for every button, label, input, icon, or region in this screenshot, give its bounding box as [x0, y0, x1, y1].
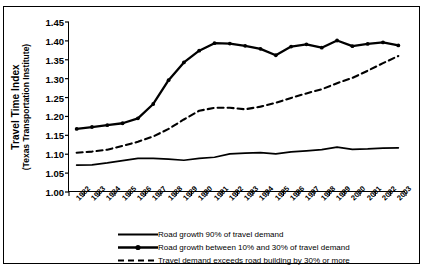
series-line-0: [77, 147, 399, 165]
data-point-marker: [259, 47, 263, 51]
data-point-marker: [182, 61, 186, 65]
data-point-marker: [350, 44, 354, 48]
y-tick-label: 1.45: [46, 17, 65, 28]
data-point-marker: [320, 46, 324, 50]
x-axis-tick-labels: 1982198319841985198619871988198919901991…: [68, 194, 405, 228]
y-tick-label: 1.30: [46, 73, 65, 84]
solid-thick-marker-key: [118, 242, 158, 253]
series-line-2: [77, 56, 399, 153]
data-point-marker: [105, 123, 109, 127]
plot-area: [68, 22, 405, 192]
legend-item: Road growth between 10% and 30% of trave…: [118, 241, 408, 253]
data-point-marker: [151, 102, 155, 106]
data-point-marker: [289, 45, 293, 49]
legend-label: Road growth between 10% and 30% of trave…: [158, 242, 350, 253]
data-point-marker: [366, 42, 370, 46]
y-tick-label: 1.15: [46, 130, 65, 141]
data-point-marker: [167, 78, 171, 82]
y-tick-label: 1.40: [46, 35, 65, 46]
data-point-marker: [213, 41, 217, 45]
legend-label: Travel demand exceeds road building by 3…: [158, 255, 350, 266]
data-point-marker: [243, 44, 247, 48]
chart-page: Travel Time Index (Texas Transportation …: [0, 0, 424, 272]
data-point-marker: [136, 116, 140, 120]
data-point-marker: [305, 42, 309, 46]
series-line-1: [77, 41, 399, 129]
data-point-marker: [90, 125, 94, 129]
data-point-marker: [335, 39, 339, 43]
y-tick-label: 1.35: [46, 54, 65, 65]
series-canvas: [69, 22, 406, 192]
y-tick-label: 1.10: [46, 149, 65, 160]
data-point-marker: [75, 127, 79, 131]
chart-legend: Road growth 90% of travel demandRoad gro…: [118, 228, 408, 268]
data-point-marker: [396, 44, 400, 48]
legend-item: Travel demand exceeds road building by 3…: [118, 254, 408, 266]
y-tick-label: 1.20: [46, 111, 65, 122]
data-point-marker: [197, 49, 201, 53]
data-point-marker: [121, 121, 125, 125]
solid-thin-key: [118, 229, 158, 240]
data-point-marker: [274, 53, 278, 57]
y-tick-label: 1.25: [46, 92, 65, 103]
y-tick-label: 1.05: [46, 168, 65, 179]
y-tick-label: 1.00: [46, 187, 65, 198]
data-point-marker: [381, 41, 385, 45]
legend-label: Road growth 90% of travel demand: [158, 229, 283, 240]
y-axis-tick-labels: 1.451.401.351.301.251.201.151.101.051.00: [30, 22, 64, 192]
data-point-marker: [228, 42, 232, 46]
legend-item: Road growth 90% of travel demand: [118, 228, 408, 240]
dashed-key: [118, 255, 158, 266]
